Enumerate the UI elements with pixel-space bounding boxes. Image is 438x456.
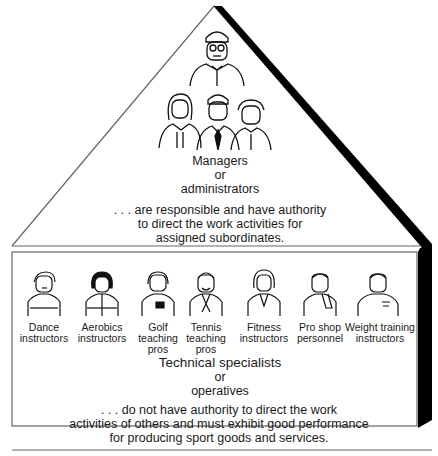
top-tier-description: . . . are responsible and have authority… [80,203,360,245]
top-desc-line2: to direct the work activities for [80,217,360,231]
bottom-title-line3: operatives [100,384,340,398]
manager-older-icon [228,96,274,150]
top-title-line3: administrators [100,182,340,196]
bottom-title-line2: or [100,370,340,384]
golf-pro-icon [140,270,176,316]
bottom-desc-line3: for producing sport goods and services. [34,431,404,445]
tennis-pro-icon [186,268,226,316]
bottom-tier-title: Technical specialists or operatives [100,355,340,398]
top-desc-line1: . . . are responsible and have authority [80,203,360,217]
bottom-title-line1: Technical specialists [100,355,340,370]
top-title-line2: or [100,168,340,182]
top-title-line1: Managers [100,154,340,168]
top-manager-icon [182,28,252,86]
aerobics-instructor-icon [82,270,122,316]
role-label-weight-training: Weight training instructors [340,322,420,344]
bottom-desc-line1: . . . do not have authority to direct th… [34,403,404,417]
bottom-desc-line2: activities of others and must exhibit go… [34,417,404,431]
fitness-instructor-icon [244,268,284,316]
top-desc-line3: assigned subordinates. [80,231,360,245]
weight-training-instructor-icon [356,268,400,316]
top-tier-title: Managers or administrators [100,154,340,196]
bottom-tier-description: . . . do not have authority to direct th… [34,403,404,445]
pro-shop-personnel-icon [300,268,340,316]
dance-instructor-icon [24,270,64,316]
